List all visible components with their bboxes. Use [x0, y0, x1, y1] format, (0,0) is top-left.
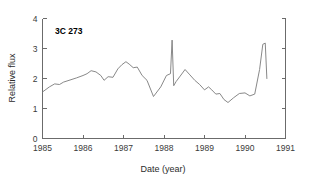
y-tick-label: 2	[33, 74, 38, 84]
chart-figure: 01234 1985198619871988198919901991 3C 27…	[0, 0, 314, 180]
y-axis-tick-labels: 01234	[33, 14, 38, 144]
y-axis-title: Relative flux	[7, 53, 17, 103]
x-axis-title: Date (year)	[140, 164, 185, 174]
y-tick-label: 4	[33, 14, 38, 24]
y-tick-label: 3	[33, 44, 38, 54]
x-tick-label: 1989	[195, 143, 214, 153]
flux-data-line	[43, 40, 267, 102]
x-tick-label: 1988	[155, 143, 174, 153]
x-tick-label: 1986	[74, 143, 93, 153]
y-tick-label: 1	[33, 104, 38, 114]
x-tick-label: 1991	[276, 143, 295, 153]
x-tick-label: 1985	[33, 143, 52, 153]
x-axis-ticks	[43, 135, 286, 139]
plot-frame	[43, 19, 286, 139]
x-tick-label: 1990	[236, 143, 255, 153]
x-axis-tick-labels: 1985198619871988198919901991	[33, 143, 295, 153]
relative-flux-line-chart: 01234 1985198619871988198919901991 3C 27…	[0, 0, 314, 180]
axis-frame	[43, 19, 286, 139]
y-axis-ticks	[43, 19, 286, 139]
x-tick-label: 1987	[114, 143, 133, 153]
series-annotation-label: 3C 273	[55, 26, 83, 36]
